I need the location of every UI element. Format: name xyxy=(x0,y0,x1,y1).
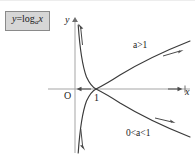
function-label-func: log xyxy=(22,13,35,24)
curve-label-a-between-0-and-1: 0<a<1 xyxy=(126,128,150,138)
direction-arrow-right-lower-icon xyxy=(155,118,176,123)
direction-arrow-down-icon xyxy=(80,129,85,151)
function-label-box: y=logax xyxy=(5,11,50,31)
x-tick-label-one: 1 xyxy=(94,93,99,103)
x-axis-label: x xyxy=(185,87,189,97)
direction-arrow-right-on-x-axis-icon xyxy=(168,87,183,91)
direction-arrow-left-on-x-axis-icon xyxy=(77,87,92,91)
y-axis-arrowhead xyxy=(72,17,78,22)
origin-label: O xyxy=(64,91,71,101)
function-label-arg: x xyxy=(38,13,42,24)
y-axis-label: y xyxy=(65,15,69,25)
curve-label-a-greater-than-1: a>1 xyxy=(133,40,147,50)
logarithm-function-figure: y=logax y x O 1 a>1 0<a<1 xyxy=(0,0,195,166)
